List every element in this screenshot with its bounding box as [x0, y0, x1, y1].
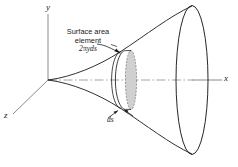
surface-area-element-annotation: Surface area element 2πyds: [54, 28, 122, 54]
z-axis-line: [13, 80, 48, 114]
surface-element-disc-shaded: [125, 51, 136, 110]
surface-of-revolution-diagram: [0, 0, 238, 167]
ds-label: ds: [107, 116, 114, 125]
annotation-variables: yds: [87, 44, 97, 53]
annotation-line-3: 2πyds: [54, 45, 122, 54]
horn-lower-profile: [48, 80, 192, 154]
x-axis-label: x: [224, 73, 228, 83]
y-axis-label: y: [46, 2, 50, 12]
figure-container: y x z ds Surface area element 2πyds: [0, 0, 238, 167]
z-axis-label: z: [4, 110, 8, 120]
